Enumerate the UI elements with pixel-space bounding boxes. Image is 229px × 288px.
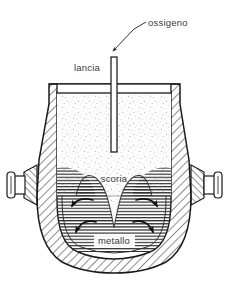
left-trunnion-bearing <box>14 176 25 194</box>
diagram-root: ossigeno lancia scoria metallo <box>0 0 229 288</box>
label-metallo: metallo <box>98 235 130 246</box>
right-trunnion-bearing <box>204 176 215 194</box>
label-lancia: lancia <box>74 62 101 73</box>
label-scoria: scoria <box>101 173 128 184</box>
converter-diagram: ossigeno lancia scoria metallo <box>0 0 229 288</box>
label-ossigeno: ossigeno <box>148 17 188 28</box>
oxygen-lance <box>111 57 117 152</box>
